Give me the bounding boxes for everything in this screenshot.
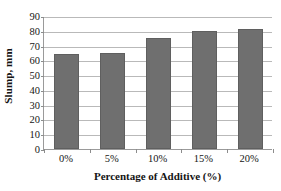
y-tick-label: 10 xyxy=(15,130,40,140)
bar-0pct xyxy=(54,54,79,149)
y-tick-label: 0 xyxy=(15,145,40,155)
plot-area xyxy=(43,17,272,150)
bar-10pct xyxy=(146,38,171,149)
y-tick-label: 40 xyxy=(15,86,40,96)
x-axis-title: Percentage of Additive (%) xyxy=(43,170,272,182)
x-tick-mark xyxy=(273,149,274,153)
x-axis-tick-labels: 0%5%10%15%20% xyxy=(43,153,272,169)
bars-layer xyxy=(44,17,272,149)
x-tick-label: 5% xyxy=(92,153,132,165)
y-tick-label: 90 xyxy=(15,12,40,22)
x-tick-label: 0% xyxy=(46,153,86,165)
bar-5pct xyxy=(100,53,125,149)
y-tick-label: 70 xyxy=(15,42,40,52)
x-tick-label: 20% xyxy=(229,153,269,165)
y-axis-tick-labels: 0102030405060708090 xyxy=(15,12,40,152)
y-tick-label: 60 xyxy=(15,56,40,66)
y-tick-label: 20 xyxy=(15,115,40,125)
bar-20pct xyxy=(238,29,263,149)
y-axis-title: Slump, mm xyxy=(0,0,16,152)
y-tick-label: 80 xyxy=(15,27,40,37)
bar-15pct xyxy=(192,31,217,149)
x-tick-label: 10% xyxy=(138,153,178,165)
x-tick-label: 15% xyxy=(183,153,223,165)
bar-chart-figure: Slump, mm 0102030405060708090 0%5%10%15%… xyxy=(0,0,281,191)
y-axis-title-label: Slump, mm xyxy=(2,48,14,103)
y-tick-label: 30 xyxy=(15,101,40,111)
y-tick-label: 50 xyxy=(15,71,40,81)
